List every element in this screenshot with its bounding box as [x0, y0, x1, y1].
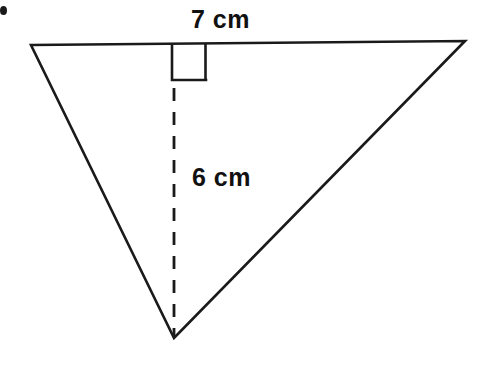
base-length-label: 7 cm	[191, 7, 250, 32]
geometry-figure: 7 cm 6 cm	[0, 0, 482, 365]
height-length-label: 6 cm	[192, 165, 251, 190]
scan-speck-artifact	[0, 6, 7, 15]
right-angle-marker-icon	[172, 46, 206, 80]
